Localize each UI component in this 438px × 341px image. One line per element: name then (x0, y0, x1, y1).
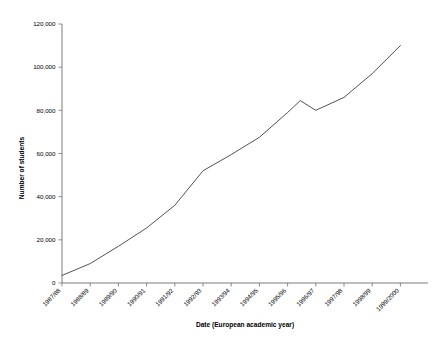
y-tick-label: 120,000 (33, 20, 56, 27)
y-tick-label: 0 (52, 279, 56, 286)
y-tick-label: 60,000 (37, 150, 56, 157)
y-tick-label: 40,000 (37, 193, 56, 200)
line-chart: 020,00040,00060,00080,000100,000120,000 … (0, 0, 438, 341)
chart-canvas: 020,00040,00060,00080,000100,000120,000 … (0, 0, 438, 341)
chart-background (0, 0, 438, 341)
y-tick-label: 80,000 (37, 107, 56, 114)
x-axis-title: Date (European academic year) (196, 321, 294, 329)
y-tick-label: 20,000 (37, 236, 56, 243)
y-axis-title: Number of students (18, 137, 25, 200)
y-tick-label: 100,000 (33, 63, 56, 70)
